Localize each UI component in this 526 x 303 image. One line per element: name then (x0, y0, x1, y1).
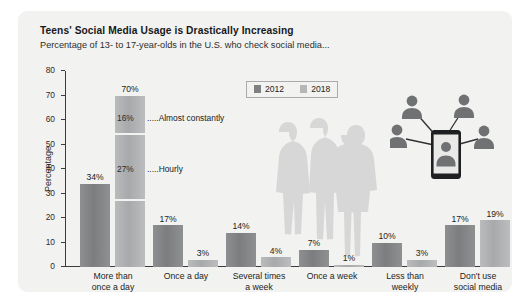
bar-label-2018-once-a-week: 1% (343, 253, 355, 263)
bar-label-2012-less-than-weekly: 10% (378, 231, 395, 241)
x-category-label-dont-use-social-media: Don't use social media (434, 271, 512, 292)
stack-divider-upper (115, 133, 145, 135)
bar-label-2018-less-than-weekly: 3% (416, 248, 428, 258)
x-category-line-1: Don't use (434, 271, 512, 282)
y-tick-label-70: 70 (46, 90, 55, 100)
bar-2018-once-a-week[interactable] (334, 265, 364, 268)
bar-2012-once-a-week[interactable] (299, 250, 329, 267)
bar-2012-several-times-a-week[interactable] (226, 233, 256, 267)
stack-segment-label-hourly: 27% (117, 164, 134, 174)
x-category-line-2: once a day (69, 282, 157, 292)
bar-label-2012-once-a-day: 17% (159, 214, 176, 224)
bar-label-2018-several-times-a-week: 4% (270, 246, 282, 256)
bar-label-2018-dont-use-social-media: 19% (486, 209, 503, 219)
bar-2012-less-than-weekly[interactable] (372, 243, 402, 268)
y-tick-50: 50 (61, 144, 65, 145)
y-tick-20: 20 (61, 217, 65, 218)
bar-label-2012-once-a-week: 7% (308, 238, 320, 248)
stack-callout-almost-constantly: .....Almost constantly (147, 113, 224, 123)
bar-2018-several-times-a-week[interactable] (261, 257, 291, 267)
page-subtitle: Percentage of 13- to 17-year-olds in the… (40, 40, 330, 50)
stack-callout-hourly: .....Hourly (147, 164, 183, 174)
y-axis-line (65, 71, 66, 267)
bar-2018-less-than-weekly[interactable] (407, 260, 437, 267)
bar-2012-more-than-once-a-day[interactable] (80, 184, 110, 267)
bar-label-2012-dont-use-social-media: 17% (451, 214, 468, 224)
y-tick-30: 30 (61, 193, 65, 194)
bar-2012-once-a-day[interactable] (153, 225, 183, 267)
y-tick-label-20: 20 (46, 212, 55, 222)
y-tick-40: 40 (61, 168, 65, 169)
page-title: Teens' Social Media Usage is Drastically… (40, 25, 294, 36)
bar-label-2018-more-than-once-a-day: 70% (121, 84, 138, 94)
stack-segment-label-almost-constantly: 16% (117, 113, 134, 123)
bar-label-2012-several-times-a-week: 14% (232, 221, 249, 231)
stack-divider-lower (115, 199, 145, 201)
plot-area: Percentage 0 10 20 30 40 50 60 70 80 (65, 71, 495, 267)
bar-label-2018-once-a-day: 3% (197, 248, 209, 258)
bar-2018-once-a-day[interactable] (188, 260, 218, 267)
y-tick-label-30: 30 (46, 188, 55, 198)
y-tick-label-40: 40 (46, 163, 55, 173)
bar-label-2012-more-than-once-a-day: 34% (86, 172, 103, 182)
y-tick-10: 10 (61, 242, 65, 243)
y-tick-0: 0 (61, 266, 65, 267)
y-tick-label-10: 10 (46, 237, 55, 247)
y-tick-60: 60 (61, 119, 65, 120)
x-category-line-2: a week (215, 282, 303, 292)
bar-2018-dont-use-social-media[interactable] (480, 220, 510, 267)
y-tick-label-50: 50 (46, 139, 55, 149)
chart-card: Teens' Social Media Usage is Drastically… (18, 11, 512, 292)
x-category-line-2: social media (434, 282, 512, 292)
y-tick-label-80: 80 (46, 65, 55, 75)
y-tick-label-0: 0 (50, 261, 55, 271)
y-tick-label-60: 60 (46, 114, 55, 124)
bar-2012-dont-use-social-media[interactable] (445, 225, 475, 267)
y-tick-70: 70 (61, 95, 65, 96)
y-tick-80: 80 (61, 70, 65, 71)
